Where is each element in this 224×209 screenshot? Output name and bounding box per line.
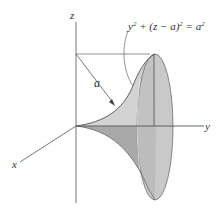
equation-leader [124, 31, 133, 86]
z-axis-label: z [69, 9, 75, 21]
x-axis [20, 126, 76, 162]
equation-label: y2 + (z − a)2 = a2 [127, 20, 205, 33]
arrowhead-icon [109, 99, 115, 106]
horn-opening-ellipse [137, 54, 173, 200]
y-axis-label: y [204, 120, 210, 132]
radius-label: a [94, 76, 100, 90]
x-axis-label: x [11, 158, 17, 170]
horn-surface-diagram: z y x a y2 + (z − a)2 = a2 [0, 0, 224, 209]
